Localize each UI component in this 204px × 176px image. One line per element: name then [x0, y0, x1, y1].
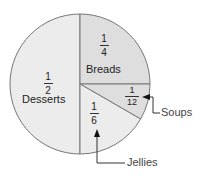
jellies-fraction: 1 6 [86, 101, 102, 126]
jellies-denominator: 6 [86, 115, 102, 126]
desserts-numerator: 1 [40, 71, 56, 82]
jellies-callout-label: Jellies [127, 156, 158, 168]
soups-fraction: 1 12 [122, 86, 142, 107]
jellies-numerator: 1 [86, 101, 102, 112]
pie-chart [0, 0, 204, 176]
breads-label: Breads [86, 63, 121, 75]
breads-numerator: 1 [96, 33, 112, 44]
soups-numerator: 1 [122, 86, 142, 95]
soups-callout-label: Soups [161, 106, 192, 118]
desserts-label: Desserts [22, 93, 65, 105]
breads-denominator: 4 [96, 47, 112, 58]
soups-denominator: 12 [122, 98, 142, 107]
breads-fraction: 1 4 [96, 33, 112, 58]
